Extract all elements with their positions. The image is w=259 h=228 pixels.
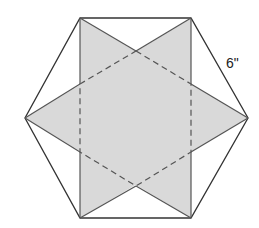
shaded-star-region (25, 18, 248, 218)
side-length-label: 6" (226, 55, 239, 71)
hexagon-star-diagram (0, 0, 259, 228)
